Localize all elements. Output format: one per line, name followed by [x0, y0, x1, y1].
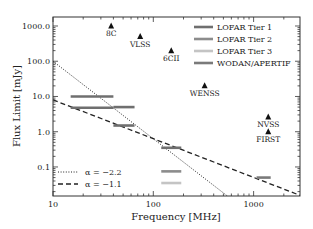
flux-limit-chart: 8CVLSS6CIIWENSSNVSSFIRST 1010010000.11.0… — [0, 0, 313, 229]
survey-label-8c: 8C — [106, 29, 117, 38]
legend-label: WODAN/APERTIF — [217, 59, 291, 68]
survey-label-first: FIRST — [256, 135, 280, 144]
legend-label: LOFAR Tier 2 — [217, 35, 272, 44]
legend-label: LOFAR Tier 3 — [217, 47, 272, 56]
y-axis-label: Flux Limit [mJy] — [11, 65, 22, 147]
legend-line-label: α = −2.2 — [85, 168, 122, 177]
survey-marker-nvss — [265, 114, 271, 120]
legend-line-label: α = −1.1 — [85, 180, 122, 189]
survey-marker-first — [265, 128, 271, 134]
survey-label-vlss: VLSS — [129, 40, 151, 49]
survey-marker-6cii — [168, 47, 174, 53]
legend-label: LOFAR Tier 1 — [217, 23, 272, 32]
x-tick-label: 100 — [146, 200, 161, 209]
survey-label-wenss: WENSS — [190, 89, 220, 98]
y-tick-label: 1000.0 — [22, 22, 50, 31]
x-axis-label: Frequency [MHz] — [131, 211, 220, 222]
y-tick-label: 1.0 — [37, 128, 50, 137]
y-tick-label: 0.1 — [37, 163, 50, 172]
x-tick-label: 1000 — [243, 200, 263, 209]
survey-label-nvss: NVSS — [257, 120, 279, 129]
y-tick-label: 100.0 — [27, 57, 50, 66]
y-tick-label: 10.0 — [32, 92, 50, 101]
legend-lines: α = −2.2α = −1.1 — [58, 168, 122, 189]
legend-bands: LOFAR Tier 1LOFAR Tier 2LOFAR Tier 3WODA… — [194, 23, 291, 68]
x-tick-label: 10 — [48, 200, 58, 209]
survey-marker-vlss — [137, 33, 143, 39]
survey-marker-8c — [108, 22, 114, 28]
survey-label-6cii: 6CII — [163, 54, 179, 63]
survey-marker-wenss — [202, 82, 208, 88]
